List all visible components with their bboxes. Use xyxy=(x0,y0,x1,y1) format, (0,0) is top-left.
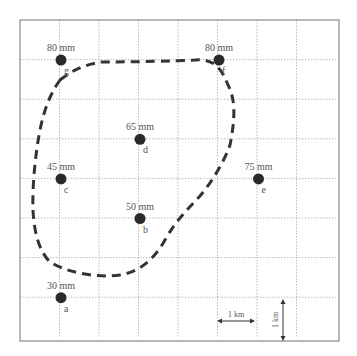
horizontal-scale-label: 1 km xyxy=(228,310,245,319)
station-id-label: f xyxy=(222,65,226,76)
rain-gauge-marker xyxy=(253,173,264,184)
rainfall-label: 45 mm xyxy=(47,161,75,172)
station-c: 45 mmc xyxy=(47,161,75,195)
station-e: 75 mme xyxy=(244,161,272,195)
station-d: 65 mmd xyxy=(126,121,154,155)
rain-gauge-marker xyxy=(135,134,146,145)
vertical-scale-label: 1 km xyxy=(271,311,280,328)
rain-gauge-marker xyxy=(214,55,225,66)
rain-gauge-marker xyxy=(135,213,146,224)
rainfall-label: 80 mm xyxy=(47,42,75,53)
station-id-label: a xyxy=(64,303,69,314)
rainfall-label: 75 mm xyxy=(244,161,272,172)
rain-gauge-map: 30 mma50 mmb45 mmc65 mmd75 mme80 mmf80 m… xyxy=(0,0,357,356)
vertical-scale-bar: 1 km xyxy=(271,299,286,341)
rainfall-label: 30 mm xyxy=(47,280,75,291)
station-b: 50 mmb xyxy=(126,201,154,235)
rain-gauge-marker xyxy=(56,55,67,66)
rainfall-label: 50 mm xyxy=(126,201,154,212)
horizontal-scale-bar: 1 km xyxy=(217,310,255,324)
rain-gauge-marker xyxy=(56,292,67,303)
station-id-label: e xyxy=(262,184,267,195)
station-id-label: b xyxy=(143,224,148,235)
station-id-label: c xyxy=(64,184,69,195)
stations: 30 mma50 mmb45 mmc65 mmd75 mme80 mmf80 m… xyxy=(47,42,273,314)
rainfall-label: 65 mm xyxy=(126,121,154,132)
station-g: 80 mmg xyxy=(47,42,75,76)
rainfall-label: 80 mm xyxy=(205,42,233,53)
station-id-label: g xyxy=(64,65,69,76)
station-id-label: d xyxy=(143,144,148,155)
rain-gauge-marker xyxy=(56,173,67,184)
station-a: 30 mma xyxy=(47,280,75,314)
